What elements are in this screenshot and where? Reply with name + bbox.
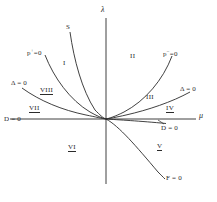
bifurcation-diagram: λ μ S p+=0 p−=0 Δ = 0 Δ = 0 D = 0 D = 0 … <box>0 0 217 202</box>
curve-label-D-zero-right: D = 0 <box>161 125 178 132</box>
curve-label-delta-right: Δ = 0 <box>180 86 196 93</box>
curve-D-right <box>106 119 166 124</box>
mu-axis-label: μ <box>199 112 203 120</box>
curve-p-plus <box>45 55 106 119</box>
region-label-VI: VI <box>68 144 76 152</box>
curve-label-delta-left: Δ = 0 <box>11 80 27 87</box>
region-label-VIII: VIII <box>40 87 53 95</box>
p-minus-tail: =0 <box>170 50 178 58</box>
curve-p-minus <box>106 56 172 119</box>
diagram-canvas <box>0 0 217 202</box>
region-label-II: II <box>130 53 135 60</box>
region-label-I: I <box>63 60 66 67</box>
curve-label-p-minus: p−=0 <box>163 49 178 58</box>
curve-label-F-zero: F = 0 <box>166 175 182 182</box>
curve-label-p-plus: p+=0 <box>27 48 42 57</box>
lambda-axis-label: λ <box>101 6 104 14</box>
region-label-VII: VII <box>29 105 40 113</box>
p-plus-tail: =0 <box>34 49 42 57</box>
curve-label-S: S <box>66 24 70 31</box>
region-label-V: V <box>157 143 162 151</box>
region-label-IV: IV <box>166 105 174 113</box>
curve-S <box>70 32 106 119</box>
region-label-III: III <box>146 94 154 101</box>
curve-label-D-zero-left: D = 0 <box>4 116 21 123</box>
